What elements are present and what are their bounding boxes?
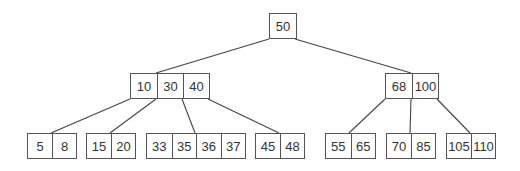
node-key: 85 bbox=[411, 134, 435, 158]
node-key: 33 bbox=[147, 134, 172, 158]
tree-edge bbox=[410, 99, 411, 133]
node-key: 65 bbox=[351, 134, 376, 158]
tree-node-leaf2: 1520 bbox=[86, 133, 136, 159]
node-key: 50 bbox=[270, 14, 296, 38]
tree-node-l2a: 103040 bbox=[130, 73, 210, 99]
node-key: 70 bbox=[387, 134, 411, 158]
node-key: 8 bbox=[52, 134, 76, 158]
node-key: 15 bbox=[87, 134, 111, 158]
node-key: 5 bbox=[28, 134, 52, 158]
tree-node-root: 50 bbox=[269, 13, 297, 39]
node-key: 35 bbox=[172, 134, 197, 158]
tree-node-leaf6: 7085 bbox=[386, 133, 436, 159]
node-key: 68 bbox=[386, 74, 412, 98]
tree-edge bbox=[51, 99, 130, 133]
tree-node-leaf7: 105110 bbox=[446, 133, 496, 159]
node-key: 37 bbox=[221, 134, 246, 158]
tree-node-l2b: 68100 bbox=[385, 73, 439, 99]
tree-node-leaf4: 4548 bbox=[255, 133, 305, 159]
tree-edge bbox=[437, 99, 470, 133]
node-key: 45 bbox=[256, 134, 280, 158]
node-key: 105 bbox=[447, 134, 471, 158]
tree-node-leaf1: 58 bbox=[27, 133, 77, 159]
node-key: 110 bbox=[471, 134, 495, 158]
node-key: 36 bbox=[196, 134, 221, 158]
tree-edge bbox=[295, 39, 411, 73]
node-key: 40 bbox=[183, 74, 209, 98]
node-key: 10 bbox=[131, 74, 157, 98]
tree-edge bbox=[182, 99, 195, 133]
tree-node-leaf3: 33353637 bbox=[146, 133, 246, 159]
node-key: 20 bbox=[111, 134, 135, 158]
tree-edge bbox=[208, 99, 279, 133]
node-key: 55 bbox=[326, 134, 351, 158]
tree-node-leaf5: 5565 bbox=[325, 133, 376, 159]
node-key: 48 bbox=[280, 134, 304, 158]
tree-edge bbox=[156, 39, 269, 73]
b-tree-diagram: 5010304068100581520333536374548556570851… bbox=[0, 0, 520, 171]
tree-edge bbox=[349, 99, 385, 133]
node-key: 100 bbox=[412, 74, 438, 98]
node-key: 30 bbox=[157, 74, 183, 98]
